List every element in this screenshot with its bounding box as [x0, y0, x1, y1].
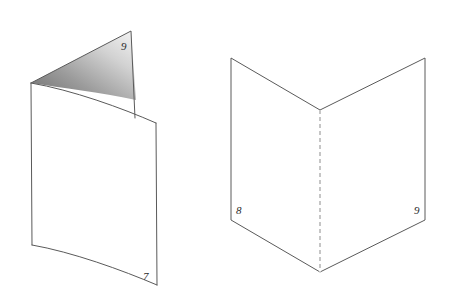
canvas-background — [0, 0, 453, 308]
right-figure-vertex-label-9: 9 — [414, 204, 420, 216]
left-figure-vertex-label-7: 7 — [143, 270, 149, 282]
geometry-illustration-canvas: 9 7 8 9 — [0, 0, 453, 308]
left-figure-vertex-label-9: 9 — [121, 40, 127, 52]
right-figure-vertex-label-8: 8 — [236, 204, 242, 216]
